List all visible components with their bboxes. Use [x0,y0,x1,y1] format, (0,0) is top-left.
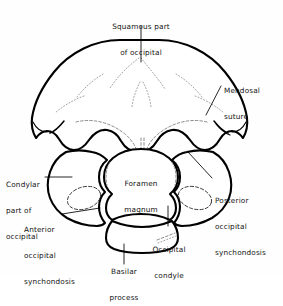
label-basilar-process: Basilar process [99,251,149,306]
label-mendosal-suture: Mendosal suture [224,70,282,139]
label-foramen-magnum: Foramen magnum [111,163,171,232]
label-posterior-occipital-synchondosis: Posterior occipital synchondosis [215,180,283,275]
label-posterior-synchondosis-line2: occipital [215,223,283,232]
label-occipital-condyle: Occipital condyle [144,229,194,298]
label-anterior-synchondosis-line1: Anterior [24,226,86,235]
label-condylar-part-line1: Condylar [6,181,56,190]
label-occipital-condyle-line2: condyle [144,272,194,281]
label-foramen-magnum-line2: magnum [111,206,171,215]
label-mendosal-suture-line1: Mendosal [224,87,282,96]
label-anterior-synchondosis-line2: occipital [24,252,86,261]
label-squamous-part-line1: Squamous part [81,23,201,32]
label-anterior-occipital-synchondosis: Anterior occipital synchondosis [24,209,86,304]
label-basilar-process-line1: Basilar [99,268,149,277]
label-foramen-magnum-line1: Foramen [111,180,171,189]
label-basilar-process-line2: process [99,294,149,303]
label-posterior-synchondosis-line3: synchondosis [215,249,283,258]
label-squamous-part-line2: of occipital [81,49,201,58]
label-mendosal-suture-line2: suture [224,113,282,122]
label-squamous-part: Squamous part of occipital [81,6,201,75]
label-occipital-condyle-line1: Occipital [144,246,194,255]
label-posterior-synchondosis-line1: Posterior [215,197,283,206]
label-anterior-synchondosis-line3: synchondosis [24,278,86,287]
